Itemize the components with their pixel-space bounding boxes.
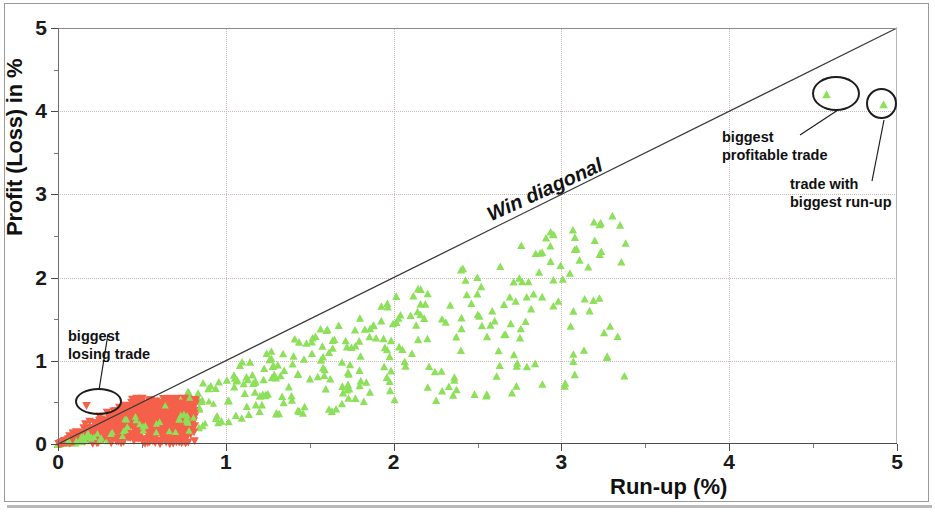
scatter-marker <box>300 355 308 363</box>
scatter-marker <box>608 212 616 220</box>
scatter-marker <box>360 397 368 405</box>
scatter-marker <box>571 371 579 379</box>
x-tick-label: 2 <box>388 450 400 474</box>
x-tick-label: 0 <box>52 450 64 474</box>
scatter-marker <box>238 358 246 366</box>
scatter-marker <box>569 307 577 315</box>
scatter-marker <box>523 363 531 371</box>
scatter-marker <box>289 352 297 360</box>
scatter-marker <box>437 367 445 375</box>
scatter-marker <box>554 297 562 305</box>
scatter-marker <box>512 382 520 390</box>
x-tick-minor <box>813 444 814 448</box>
scatter-marker <box>522 318 530 326</box>
scatter-marker <box>457 325 465 333</box>
scatter-marker <box>287 392 295 400</box>
y-tick-major <box>51 194 58 195</box>
scatter-marker <box>473 273 481 281</box>
scatter-marker <box>248 371 256 379</box>
scatter-marker <box>365 333 373 341</box>
scatter-marker <box>379 335 387 343</box>
axis-spine-top <box>58 28 897 29</box>
scatter-marker <box>338 400 346 408</box>
scatter-marker <box>362 378 370 386</box>
scatter-marker <box>512 297 520 305</box>
y-tick-major <box>51 444 58 445</box>
scatter-marker <box>412 321 420 329</box>
scatter-marker <box>474 311 482 319</box>
scatter-marker <box>294 371 302 379</box>
y-tick-major <box>51 28 58 29</box>
annotation-biggest-losing-trade: biggest losing trade <box>68 327 150 363</box>
scatter-marker <box>383 373 391 381</box>
y-tick-major <box>51 278 58 279</box>
scatter-marker <box>270 371 278 379</box>
figure-frame-shadow <box>7 505 932 508</box>
scatter-marker <box>507 320 515 328</box>
y-tick-major <box>51 111 58 112</box>
x-tick-label: 3 <box>556 450 568 474</box>
scatter-marker <box>372 334 380 342</box>
scatter-marker <box>380 363 388 371</box>
scatter-marker <box>546 242 554 250</box>
plot-area: 012345012345 <box>58 28 897 444</box>
annotation-line-2: losing trade <box>68 345 150 363</box>
scatter-marker <box>300 403 308 411</box>
scatter-marker <box>386 387 394 395</box>
scatter-marker <box>478 322 486 330</box>
y-tick-minor <box>54 236 58 237</box>
scatter-marker <box>488 307 496 315</box>
scatter-marker <box>245 410 253 418</box>
scatter-marker <box>473 290 481 298</box>
scatter-marker <box>357 352 365 360</box>
scatter-marker <box>622 239 630 247</box>
callout-ellipse-biggest-losing-trade <box>75 388 122 415</box>
scatter-marker <box>355 366 363 374</box>
scatter-marker <box>575 256 583 264</box>
scatter-marker <box>493 372 501 380</box>
y-tick-label: 5 <box>35 16 47 40</box>
scatter-marker <box>524 278 532 286</box>
scatter-marker <box>566 269 574 277</box>
annotation-line-1: trade with <box>790 175 892 193</box>
scatter-marker <box>446 301 454 309</box>
scatter-marker <box>306 375 314 383</box>
scatter-marker <box>513 359 521 367</box>
scatter-marker <box>483 333 491 341</box>
scatter-marker <box>342 337 350 345</box>
scatter-marker <box>423 335 431 343</box>
scatter-marker <box>538 380 546 388</box>
scatter-marker <box>569 350 577 358</box>
axis-spine-left <box>58 28 59 444</box>
scatter-marker <box>279 350 287 358</box>
scatter-marker <box>391 396 399 404</box>
scatter-marker <box>529 290 537 298</box>
scatter-marker <box>357 377 365 385</box>
annotation-biggest-profitable-trade: biggest profitable trade <box>722 128 828 164</box>
scatter-marker <box>531 360 539 368</box>
scatter-marker <box>527 305 535 313</box>
scatter-marker <box>549 276 557 284</box>
chart-figure: Profit (Loss) in % Run-up (%) 0123450123… <box>0 0 935 512</box>
scatter-marker <box>356 314 364 322</box>
scatter-marker <box>614 332 622 340</box>
scatter-marker <box>243 402 251 410</box>
scatter-marker <box>616 221 624 229</box>
scatter-marker <box>392 292 400 300</box>
scatter-marker <box>606 322 614 330</box>
scatter-marker <box>603 352 611 360</box>
scatter-marker <box>408 349 416 357</box>
scatter-marker <box>569 357 577 365</box>
x-tick-label: 1 <box>220 450 232 474</box>
callout-ellipse-biggest-profitable-trade <box>812 76 860 111</box>
annotation-line-2: profitable trade <box>722 146 828 164</box>
annotation-line-1: biggest <box>722 128 828 146</box>
scatter-marker <box>246 358 254 366</box>
scatter-marker <box>252 401 260 409</box>
y-tick-minor <box>54 319 58 320</box>
scatter-marker <box>535 268 543 276</box>
scatter-marker <box>597 247 605 255</box>
scatter-marker <box>267 347 275 355</box>
scatter-marker <box>401 358 409 366</box>
x-tick-minor <box>645 444 646 448</box>
